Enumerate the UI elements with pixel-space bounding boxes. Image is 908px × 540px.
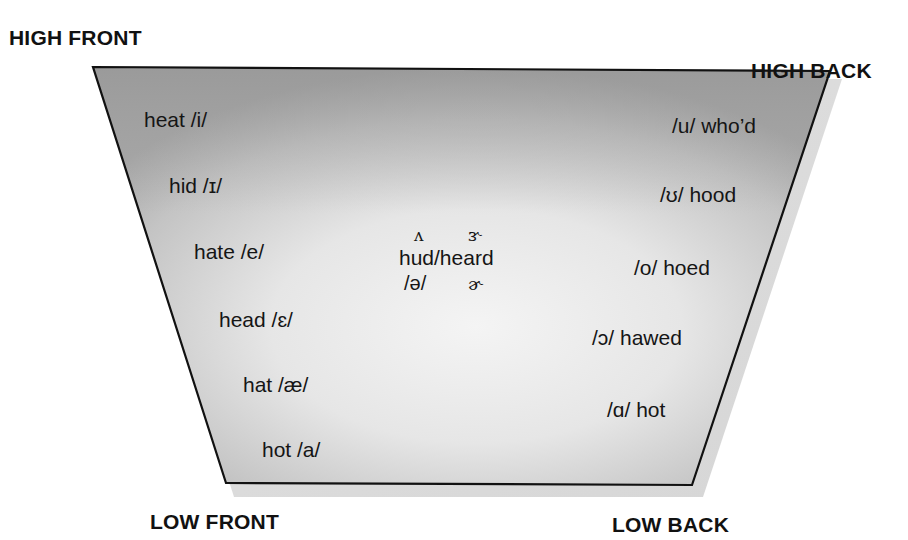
central-symbols-top: ʌ ɝ (398, 226, 520, 248)
vowel-hood: /ʊ/ hood (660, 183, 736, 207)
vowel-hate: hate /e/ (194, 240, 264, 264)
vowel-hot-front: hot /a/ (262, 438, 320, 462)
vowel-whod: /u/ who’d (672, 114, 756, 138)
vowel-hoed: /o/ hoed (634, 256, 710, 280)
central-vowel-group: ʌ ɝ hud/heard /ə/ ɚ (398, 226, 520, 248)
vowel-hid: hid /ɪ/ (169, 174, 222, 198)
vowel-head: head /ɛ/ (219, 308, 293, 332)
corner-label-low-back: LOW BACK (612, 513, 729, 537)
corner-label-low-front: LOW FRONT (150, 510, 279, 534)
symbol-wedge: ʌ (414, 225, 424, 245)
central-words: hud/heard (399, 246, 494, 270)
vowel-hawed: /ɔ/ hawed (592, 326, 682, 350)
symbol-schwa: /ə/ (404, 272, 426, 295)
corner-label-high-front: HIGH FRONT (9, 26, 142, 50)
vowel-heat: heat /i/ (144, 108, 207, 132)
central-symbols-bottom: /ə/ ɚ (398, 272, 520, 294)
symbol-unstressed-schwar: ɚ (468, 274, 482, 294)
corner-label-high-back: HIGH BACK (751, 59, 872, 83)
symbol-stressed-schwar: ɝ (468, 225, 481, 245)
vowel-hat: hat /æ/ (243, 373, 308, 397)
vowel-hot-back: /ɑ/ hot (607, 398, 665, 422)
